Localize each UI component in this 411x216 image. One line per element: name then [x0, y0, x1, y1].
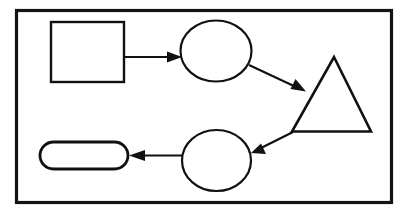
node-square[interactable]: [51, 22, 124, 82]
node-ellipse-bottom[interactable]: [182, 130, 251, 191]
diagram-canvas: [0, 0, 411, 216]
diagram-root: [0, 0, 411, 216]
node-stadium[interactable]: [40, 142, 128, 169]
node-ellipse-top[interactable]: [181, 21, 252, 82]
